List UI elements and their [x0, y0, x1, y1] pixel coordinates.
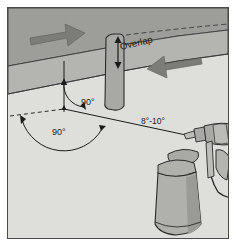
gun-barrel-highlight [213, 124, 228, 144]
label-angle-vertical: 90° [81, 97, 95, 107]
diagram-artwork [8, 8, 228, 238]
label-angle-horizontal: 90° [52, 127, 66, 137]
spray-technique-figure: rodustrio de dece Cheksos sin parte no s… [0, 0, 236, 246]
label-gun-travel-angle: 8°-10° [141, 116, 165, 126]
figure-frame: rodustrio de dece Cheksos sin parte no s… [7, 7, 229, 239]
